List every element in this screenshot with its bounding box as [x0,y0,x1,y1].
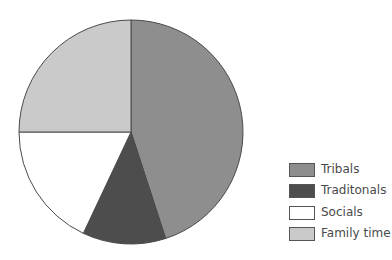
legend-label: Family time [321,225,391,242]
legend-label: Traditonals [321,182,386,199]
pie-slice-family-time [19,20,131,132]
legend-label: Socials [321,204,363,221]
legend-swatch-traditonals [289,184,315,198]
pie-chart [0,0,260,260]
legend-swatch-socials [289,206,315,220]
legend-swatch-family-time [289,227,315,241]
legend-swatch-tribals [289,163,315,177]
legend-label: Tribals [321,161,359,178]
